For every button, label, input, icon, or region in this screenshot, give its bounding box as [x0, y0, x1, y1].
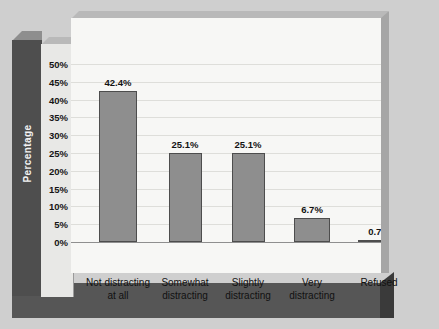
x-axis-category-label: Refused [360, 277, 397, 290]
x-axis-category-line: distracting [289, 290, 335, 303]
y-axis-tick-label: 0% [54, 237, 68, 248]
x-axis-category-label: Somewhatdistracting [161, 277, 208, 302]
bar-value-label: 0.7% [368, 226, 381, 237]
y-axis-tick-label: 30% [49, 130, 68, 141]
x-axis-category-label: Verydistracting [289, 277, 335, 302]
y-axis-tick-label: 40% [49, 94, 68, 105]
x-axis-category-line: Refused [360, 277, 397, 290]
bar [99, 91, 137, 242]
x-axis-category-line: Not distracting [86, 277, 150, 290]
y-axis-title: Percentage [22, 42, 33, 266]
bar-value-label: 6.7% [301, 204, 323, 215]
plot-area: 42.4%25.1%25.1%6.7%0.7% [71, 18, 381, 273]
bar-value-label: 25.1% [235, 139, 262, 150]
y-axis-tick-label: 45% [49, 76, 68, 87]
bar [232, 153, 265, 242]
y-axis-tick-label: 35% [49, 112, 68, 123]
bar-series: 42.4%25.1%25.1%6.7%0.7% [71, 18, 381, 273]
x-axis-category-line: Very [289, 277, 335, 290]
y-axis-tick-label: 20% [49, 165, 68, 176]
x-axis-category-labels: Not distractingat allSomewhatdistracting… [71, 277, 388, 311]
x-axis-category-label: Not distractingat all [86, 277, 150, 302]
y-axis-ticks: 50%45%40%35%30%25%20%15%10%5%0% [41, 44, 71, 248]
chart-figure: Percentage 50%45%40%35%30%25%20%15%10%5%… [0, 0, 439, 329]
bar-value-label: 25.1% [172, 139, 199, 150]
x-axis-category-line: distracting [161, 290, 208, 303]
bar [358, 240, 381, 242]
bar [169, 153, 202, 242]
bar [294, 218, 330, 242]
bar-value-label: 42.4% [105, 77, 132, 88]
y-axis-tick-label: 25% [49, 148, 68, 159]
y-axis-tick-label: 50% [49, 59, 68, 70]
x-axis-category-label: Slightlydistracting [225, 277, 271, 302]
x-axis-category-line: Slightly [225, 277, 271, 290]
y-axis-tick-label: 10% [49, 201, 68, 212]
y-axis-tick-label: 5% [54, 219, 68, 230]
y-axis-panel: Percentage [12, 40, 42, 296]
plot-area-right-bevel [380, 11, 389, 273]
x-axis-category-line: distracting [225, 290, 271, 303]
x-axis-category-line: Somewhat [161, 277, 208, 290]
y-axis-tick-label: 15% [49, 183, 68, 194]
x-axis-category-line: at all [86, 290, 150, 303]
